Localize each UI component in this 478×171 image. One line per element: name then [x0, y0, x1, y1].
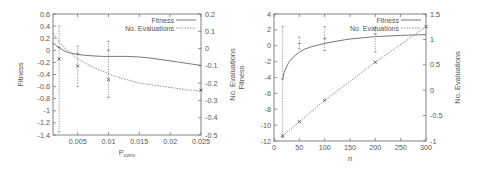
y2-tick-label: 1.5: [430, 10, 440, 19]
x-axis-label: Pconv: [119, 148, 136, 158]
x-tick-label: 50: [295, 143, 303, 152]
chart-fitness-vs-n: 050100150200250300420-2-4-6-8-10-121.510…: [237, 10, 462, 164]
y-tick-label: 0.4: [40, 22, 50, 31]
y2-tick-label: -0.1: [205, 61, 217, 70]
x-axis-label: n: [348, 154, 352, 163]
y-tick-label: 0.2: [40, 34, 50, 43]
plot-area: [281, 27, 426, 137]
y2-tick-label: -0.2: [205, 79, 217, 88]
x-tick-label: 100: [319, 143, 331, 152]
x-tick-label: 250: [395, 143, 407, 152]
x-tick-label: 0: [272, 143, 276, 152]
y2-tick-label: -0.3: [205, 96, 217, 105]
y-tick-label: -0.2: [38, 58, 50, 67]
data-point-marker: [323, 99, 326, 102]
y-tick-label: -6: [265, 89, 271, 98]
legend-label: Fitness: [151, 17, 174, 24]
y-tick-label: -0.6: [38, 82, 50, 91]
y-tick-label: -0.4: [38, 70, 50, 79]
y-axis-label: Fitness: [16, 62, 25, 86]
x-tick-label: 150: [344, 143, 356, 152]
y-tick-label: -1: [44, 106, 50, 115]
y2-tick-label: 0: [205, 44, 209, 53]
y-tick-label: -1.4: [38, 131, 50, 140]
x-tick-label: 0.005: [69, 137, 87, 146]
x-tick-label: 0.02: [163, 137, 177, 146]
y2-tick-label: 1: [430, 35, 434, 44]
y-tick-label: -4: [265, 73, 271, 82]
legend-label: No. Evaluations: [125, 25, 175, 32]
x-tick-label: 200: [369, 143, 381, 152]
legend-label: Fitness: [376, 17, 399, 24]
x-tick-label: 0.01: [102, 137, 116, 146]
y2-tick-label: 0.1: [205, 27, 215, 36]
legend-label: No. Evaluations: [350, 25, 400, 32]
series-line-evaluations: [283, 27, 426, 136]
y-tick-label: 2: [267, 25, 271, 34]
y-tick-label: 0: [267, 41, 271, 50]
data-point-marker: [298, 120, 301, 123]
y2-tick-label: 0: [430, 86, 434, 95]
charts-figure: 0.0050.010.0150.020.0250.60.40.20-0.2-0.…: [0, 0, 478, 171]
plot-area: [53, 26, 201, 132]
y-tick-label: 4: [267, 10, 271, 19]
y-axis-label: Fitness: [237, 65, 246, 89]
plot-frame: [53, 14, 201, 135]
y2-axis-label: No. Evaluations: [228, 48, 237, 101]
y2-tick-label: -0.4: [205, 113, 217, 122]
x-tick-label: 0.015: [130, 137, 148, 146]
plot-frame: [274, 14, 426, 141]
y-tick-label: 0.6: [40, 10, 50, 19]
y2-tick-label: -1: [430, 137, 436, 146]
y-tick-label: -0.8: [38, 94, 50, 103]
y-tick-label: -1.2: [38, 118, 50, 127]
series-line-fitness: [53, 43, 201, 65]
y2-tick-label: -0.5: [430, 111, 442, 120]
data-point-marker: [58, 57, 61, 60]
y-tick-label: -10: [261, 121, 271, 130]
y2-tick-label: -0.5: [205, 131, 217, 140]
y-tick-label: -12: [261, 137, 271, 146]
y2-tick-label: 0.2: [205, 10, 215, 19]
chart-fitness-vs-pconv: 0.0050.010.0150.020.0250.60.40.20-0.2-0.…: [16, 10, 237, 159]
y-tick-label: -8: [265, 105, 271, 114]
data-point-marker: [76, 64, 79, 67]
y2-axis-label: No. Evaluations: [453, 51, 462, 104]
y2-tick-label: 0.5: [430, 60, 440, 69]
y-tick-label: 0: [46, 46, 50, 55]
data-point-marker: [374, 61, 377, 64]
y-tick-label: -2: [265, 57, 271, 66]
